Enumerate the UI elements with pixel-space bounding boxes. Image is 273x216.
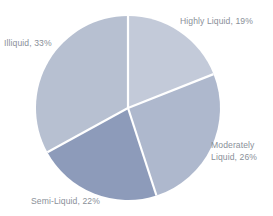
pie-label-semi-liquid: Semi-Liquid, 22% — [31, 196, 100, 208]
pie-label-moderately-liquid: Moderately Liquid, 26% — [211, 140, 257, 163]
pie-chart-svg — [0, 0, 273, 216]
pie-chart-figure: Highly Liquid, 19% Moderately Liquid, 26… — [0, 0, 273, 216]
pie-label-highly-liquid: Highly Liquid, 19% — [180, 16, 253, 28]
pie-label-illiquid: Illiquid, 33% — [4, 38, 52, 50]
